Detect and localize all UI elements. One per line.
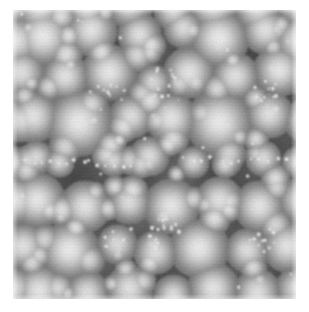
screenshot-root (0, 0, 309, 312)
micrograph-image (13, 10, 296, 299)
micrograph-canvas (13, 10, 296, 299)
